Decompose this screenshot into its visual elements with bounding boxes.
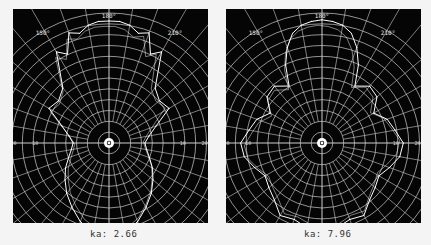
data-point <box>168 108 169 109</box>
data-point <box>266 96 267 97</box>
data-point <box>150 54 151 55</box>
data-point <box>378 175 379 176</box>
data-point <box>270 113 271 114</box>
angle-label: 210° <box>168 29 182 36</box>
data-point <box>358 64 359 65</box>
data-point <box>138 33 139 34</box>
data-point <box>71 149 72 150</box>
data-point <box>161 51 162 52</box>
grid-spoke <box>130 116 208 139</box>
grid-spoke <box>226 150 302 196</box>
polar-chart-left: 150°180°210°302010102030 <box>13 9 208 223</box>
grid-spoke <box>120 9 187 124</box>
grid-spoke <box>31 162 98 223</box>
grid-spoke <box>329 9 375 123</box>
grid-spoke <box>333 162 400 223</box>
grid-spoke <box>343 147 421 170</box>
grid-spoke <box>336 160 421 223</box>
data-point <box>73 142 74 143</box>
data-point <box>108 20 109 21</box>
data-point <box>56 51 57 52</box>
grid-spoke <box>343 116 421 139</box>
data-point <box>375 187 376 188</box>
data-point <box>287 47 288 48</box>
grid-spoke <box>226 147 301 170</box>
data-point <box>65 168 66 169</box>
center-marker-dot <box>108 142 111 145</box>
grid-spoke <box>226 43 305 129</box>
data-point <box>66 193 67 194</box>
data-point <box>351 33 352 34</box>
grid-spoke <box>226 116 301 139</box>
data-point <box>68 157 69 158</box>
caption-left: ka: 2.66 <box>90 229 137 239</box>
data-point <box>256 119 257 120</box>
data-point <box>285 64 286 65</box>
data-point <box>67 54 68 55</box>
data-point <box>64 179 65 180</box>
data-point <box>399 156 400 157</box>
grid-spoke <box>13 147 88 170</box>
data-point <box>156 125 157 126</box>
data-point <box>159 100 160 101</box>
data-point <box>356 47 357 48</box>
data-point <box>294 219 295 220</box>
radial-label: 10 <box>245 140 251 146</box>
grid-spoke <box>130 147 208 170</box>
data-point <box>394 130 395 131</box>
grid-spoke <box>333 9 400 124</box>
data-point <box>155 87 156 88</box>
grid-spoke <box>116 9 162 123</box>
data-point <box>137 221 138 222</box>
grid-spoke <box>56 9 102 123</box>
data-point <box>376 96 377 97</box>
data-point <box>146 149 147 150</box>
data-point <box>274 86 275 87</box>
data-point <box>389 167 390 168</box>
data-point <box>244 156 245 157</box>
caption-right: ka: 7.96 <box>304 229 351 239</box>
radial-label: 20 <box>13 140 17 146</box>
grid-spoke <box>326 164 349 223</box>
grid-spoke <box>226 90 302 136</box>
data-point <box>148 135 149 136</box>
grid-spoke <box>295 164 318 223</box>
grid-spoke <box>244 9 311 124</box>
data-point <box>88 25 89 26</box>
grid-spoke <box>31 9 98 124</box>
data-point <box>289 85 290 86</box>
data-point <box>280 215 281 216</box>
grid-ring <box>13 24 208 223</box>
data-point <box>349 219 350 220</box>
data-point <box>62 87 63 88</box>
data-point <box>332 21 333 22</box>
grid-spoke <box>13 43 92 129</box>
grid-spoke <box>244 162 311 223</box>
data-point <box>342 25 343 26</box>
data-point <box>48 108 49 109</box>
angle-label: 180° <box>102 12 116 19</box>
data-point <box>149 157 150 158</box>
radial-label: 10 <box>393 140 399 146</box>
grid-spoke <box>82 164 105 223</box>
data-point <box>240 142 241 143</box>
angle-label: 210° <box>381 29 395 36</box>
angle-label: 150° <box>36 29 50 36</box>
grid-spoke <box>13 116 88 139</box>
angle-label: 150° <box>249 29 263 36</box>
grid-spoke <box>13 150 89 196</box>
grid-spoke <box>113 164 136 223</box>
grid <box>13 9 208 223</box>
data-point <box>58 100 59 101</box>
grid-spoke <box>126 43 208 129</box>
radial-label: 20 <box>201 140 207 146</box>
data-point <box>119 21 120 22</box>
data-point <box>145 207 146 208</box>
data-point <box>151 193 152 194</box>
grid-spoke <box>120 162 187 223</box>
polar-plot-ka-2-66: 150°180°210°302010102030 <box>13 9 208 223</box>
data-point <box>148 32 149 33</box>
radial-label: 10 <box>32 140 38 146</box>
data-point <box>369 86 370 87</box>
data-point <box>311 21 312 22</box>
